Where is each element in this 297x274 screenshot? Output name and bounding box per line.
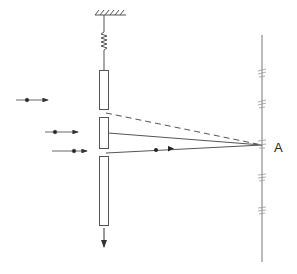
plate-segment-middle [100,118,109,149]
slit-plate [100,71,109,226]
plate-segment-bottom [100,157,109,226]
dashed-ray [106,113,262,145]
rays [106,113,262,153]
particle-direction-icon [168,146,174,152]
plate-segment-top [100,71,109,110]
point-a-label: A [274,140,283,155]
spring [101,15,107,70]
ceiling-support [95,10,126,15]
double-slit-diagram: A [0,0,297,274]
incident-particles [16,98,87,153]
ray-upper-slit [108,133,262,145]
ray-lower-slit [106,145,262,153]
moving-particle [154,148,158,152]
